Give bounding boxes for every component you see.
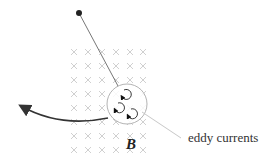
field-cross [113, 49, 119, 55]
field-cross [85, 63, 91, 69]
field-cross [99, 105, 105, 111]
field-cross [140, 147, 146, 153]
metal-plate [107, 84, 147, 124]
swing-arrow [21, 106, 108, 121]
field-cross [99, 91, 105, 97]
pivot-dot [76, 10, 82, 16]
field-cross [140, 63, 146, 69]
field-cross [127, 77, 133, 83]
field-label-b: B [125, 136, 136, 152]
field-cross [127, 49, 133, 55]
callout-leader [142, 112, 181, 138]
field-cross [113, 147, 119, 153]
field-cross [99, 77, 105, 83]
field-cross [99, 133, 105, 139]
field-cross [85, 133, 91, 139]
field-cross [140, 77, 146, 83]
field-cross [113, 63, 119, 69]
field-cross [85, 105, 91, 111]
field-cross [127, 63, 133, 69]
field-cross [71, 49, 77, 55]
eddy-current-diagram: eddy currents B [0, 0, 271, 160]
field-cross [85, 91, 91, 97]
field-cross [71, 133, 77, 139]
field-cross [140, 133, 146, 139]
field-cross [71, 77, 77, 83]
field-cross [71, 63, 77, 69]
field-cross [85, 77, 91, 83]
field-cross [85, 49, 91, 55]
eddy-currents-label: eddy currents [188, 130, 258, 145]
field-cross [71, 147, 77, 153]
field-cross [99, 63, 105, 69]
field-cross [85, 147, 91, 153]
field-cross [71, 91, 77, 97]
field-cross [140, 119, 146, 125]
field-cross [71, 105, 77, 111]
field-cross [140, 49, 146, 55]
field-cross [99, 147, 105, 153]
field-cross [113, 133, 119, 139]
pendulum-rod [79, 13, 118, 86]
field-cross [71, 119, 77, 125]
